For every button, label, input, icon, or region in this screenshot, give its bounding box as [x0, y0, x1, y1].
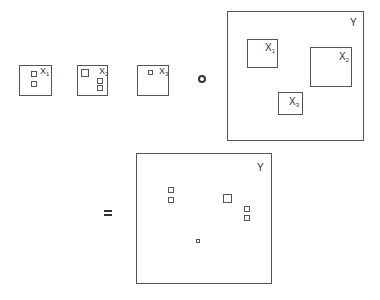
input-label-x2: X2: [99, 66, 108, 76]
result-square: [223, 194, 232, 203]
input-label-x3: X3: [159, 66, 168, 76]
input-x2-square: [81, 69, 89, 77]
input-x3-square: [148, 70, 153, 75]
input-x1-square: [31, 71, 37, 77]
input-x2-square: [97, 78, 103, 84]
input-label-x1: X1: [40, 66, 49, 76]
result-label-y: Y: [257, 163, 264, 173]
result-square: [168, 187, 174, 193]
target-slot-label-x1: X1: [265, 43, 275, 53]
result-square: [244, 206, 250, 212]
equals-sign: [104, 210, 112, 216]
result-square: [244, 215, 250, 221]
composition-operator-icon: [198, 75, 206, 83]
result-square: [196, 239, 200, 243]
input-x1-square: [31, 81, 37, 87]
target-slot-label-x2: X2: [339, 52, 349, 62]
result-square: [168, 197, 174, 203]
target-label-y: Y: [350, 18, 357, 28]
result-box-y: [136, 153, 272, 284]
target-slot-label-x3: X3: [289, 97, 299, 107]
input-x2-square: [97, 85, 103, 91]
